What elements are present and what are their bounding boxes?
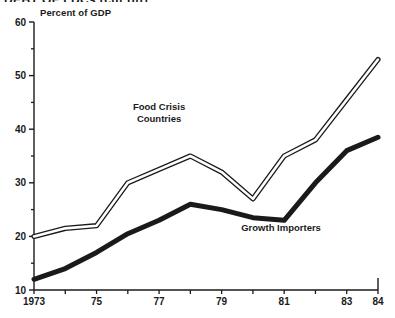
food-crisis-outer-stroke: [34, 60, 378, 237]
x-tick-label: 84: [372, 296, 384, 307]
annotation-growth-importers: Growth Importers: [241, 222, 321, 233]
chart-plot-area: 102030405060 1973757779818384 Food Crisi…: [0, 0, 395, 318]
y-tick-label: 60: [15, 17, 27, 28]
annotation-food-crisis-line1: Food Crisis: [133, 101, 185, 112]
x-axis-tick-labels: 1973757779818384: [23, 296, 384, 307]
y-tick-label: 50: [15, 70, 27, 81]
chart-figure: DEBT OF LDCs (cut off) Percent of GDP 10…: [0, 0, 395, 318]
y-tick-label: 20: [15, 231, 27, 242]
y-axis-tick-labels: 102030405060: [15, 17, 27, 296]
y-axis-ticks: [29, 22, 34, 290]
x-tick-label: 79: [216, 296, 228, 307]
x-tick-label: 75: [91, 296, 103, 307]
y-tick-label: 30: [15, 177, 27, 188]
axis-lines: [34, 22, 378, 290]
x-tick-label: 83: [341, 296, 353, 307]
x-tick-label: 81: [279, 296, 291, 307]
x-tick-label: 1973: [23, 296, 46, 307]
series-growth-importers: [34, 137, 378, 279]
y-tick-label: 10: [15, 285, 27, 296]
annotation-food-crisis-line2: Countries: [137, 113, 181, 124]
food-crisis-inner-fill: [34, 60, 378, 237]
y-tick-label: 40: [15, 124, 27, 135]
growth-importers-line: [34, 137, 378, 279]
x-tick-label: 77: [154, 296, 166, 307]
series-food-crisis-countries: [34, 60, 378, 237]
